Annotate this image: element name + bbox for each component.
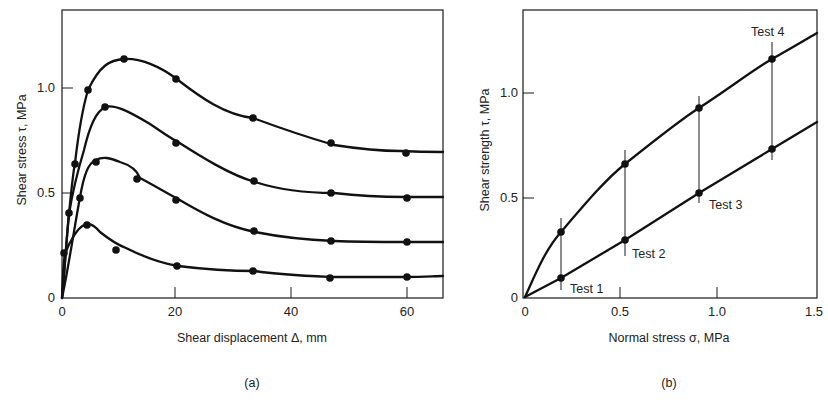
x-tick-label: 20	[168, 304, 182, 319]
markers-a	[60, 55, 411, 282]
x-axis-label-a: Shear displacement Δ, mm	[177, 331, 327, 345]
y-axis-label-a: Shear stress τ, MPa	[15, 94, 29, 205]
y-tick-label: 0.5	[500, 190, 518, 205]
y-axis-label-b: Shear strength τ, MPa	[478, 88, 492, 211]
y-tick-label: 0	[48, 290, 55, 305]
x-ticks-a	[175, 287, 407, 298]
annotation-test-4: Test 4	[751, 25, 784, 39]
x-ticks-b	[620, 287, 717, 298]
panel-a: 0 20 40 60 0 0.5 1.0 Shear displacement …	[15, 10, 443, 390]
plot-area-a	[62, 10, 443, 298]
x-tick-label: 1.5	[805, 304, 823, 319]
figure: 0 20 40 60 0 0.5 1.0 Shear displacement …	[0, 0, 828, 403]
y-ticks-b	[523, 93, 534, 198]
x-tick-label: 0	[58, 304, 65, 319]
curve-peak-strength	[525, 33, 817, 297]
y-tick-label: 1.0	[500, 85, 518, 100]
x-tick-label: 0.5	[611, 304, 629, 319]
x-tick-label: 60	[400, 304, 414, 319]
y-ticks-a	[62, 88, 73, 193]
panel-label-a: (a)	[244, 376, 259, 390]
y-tick-label: 0	[511, 290, 518, 305]
annotation-test-1: Test 1	[570, 282, 603, 296]
x-tick-label: 40	[284, 304, 298, 319]
x-tick-label: 0	[521, 304, 528, 319]
x-tick-label: 1.0	[708, 304, 726, 319]
x-axis-label-b: Normal stress σ, MPa	[609, 331, 730, 345]
markers-b	[557, 55, 776, 282]
annotation-test-3: Test 3	[709, 198, 742, 212]
plot-area-b	[523, 10, 817, 298]
curve-test-1	[62, 224, 443, 298]
panel-b: 0 0.5 1.0 1.5 0 0.5 1.0 Normal stress σ,…	[478, 10, 823, 390]
y-tick-label: 0.5	[37, 185, 55, 200]
y-tick-label: 1.0	[37, 80, 55, 95]
curves-b	[525, 33, 817, 297]
panel-label-b: (b)	[661, 376, 676, 390]
annotation-test-2: Test 2	[632, 247, 665, 261]
